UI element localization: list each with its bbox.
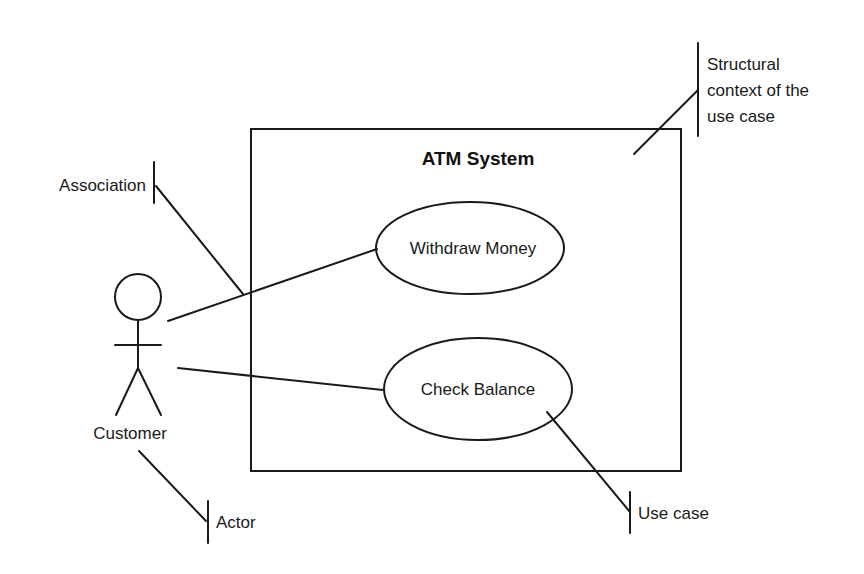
system-boundary bbox=[251, 129, 681, 471]
use-case-diagram: ATM System Withdraw Money Check Balance … bbox=[0, 0, 864, 574]
association-withdraw bbox=[168, 249, 377, 321]
callout-association-label: Association bbox=[59, 176, 146, 195]
callout-structural-context: Structural context of the use case bbox=[634, 43, 809, 154]
actor-label: Customer bbox=[93, 424, 167, 443]
stick-figure-icon bbox=[115, 274, 161, 415]
callout-structural-line1: Structural bbox=[707, 55, 780, 74]
callout-actor-label: Actor bbox=[216, 513, 256, 532]
callout-structural-line3: use case bbox=[707, 107, 775, 126]
callout-association: Association bbox=[59, 162, 243, 294]
callout-use-case-label: Use case bbox=[638, 504, 709, 523]
system-title: ATM System bbox=[422, 148, 535, 169]
callout-use-case: Use case bbox=[547, 412, 709, 533]
use-case-label: Withdraw Money bbox=[410, 239, 537, 258]
actor-customer: Customer bbox=[93, 274, 167, 443]
use-case-check-balance: Check Balance bbox=[384, 338, 572, 440]
use-case-label: Check Balance bbox=[421, 380, 535, 399]
use-case-withdraw-money: Withdraw Money bbox=[376, 202, 564, 294]
association-check-balance bbox=[178, 368, 383, 390]
callout-structural-line2: context of the bbox=[707, 81, 809, 100]
callout-actor: Actor bbox=[139, 451, 256, 543]
